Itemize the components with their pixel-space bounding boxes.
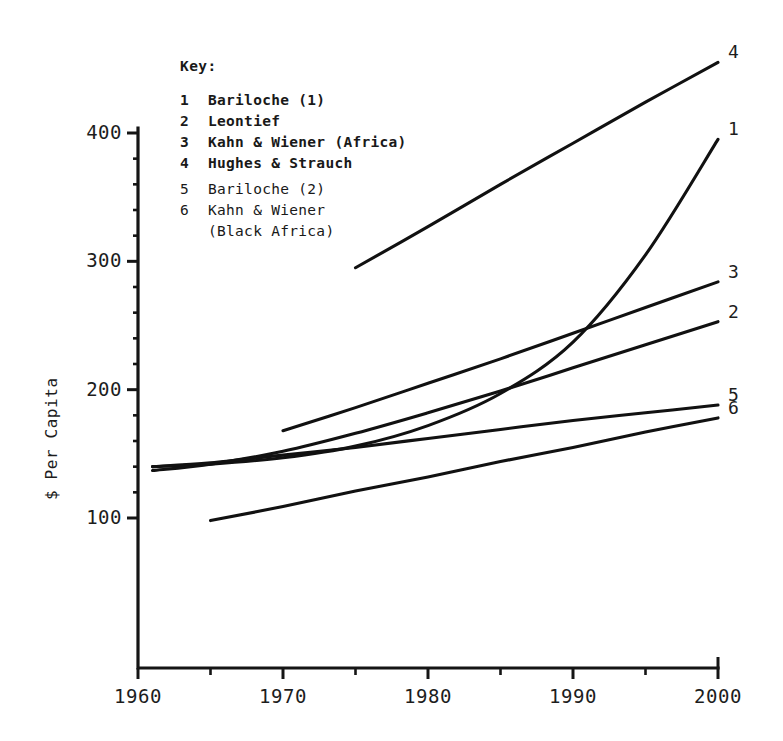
series-end-label-1: 1 bbox=[728, 118, 739, 139]
x-tick-label: 1980 bbox=[402, 685, 454, 707]
legend-entry-label: Bariloche (2) bbox=[208, 179, 510, 200]
legend-entry-6: 6Kahn & Wiener bbox=[180, 200, 510, 221]
legend-key-number: 1 bbox=[180, 90, 208, 111]
legend-entry-list: 1Bariloche (1)2Leontief3Kahn & Wiener (A… bbox=[180, 90, 510, 221]
y-tick-label: 300 bbox=[70, 249, 122, 271]
series-end-label-2: 2 bbox=[728, 301, 739, 322]
legend-entry-5: 5Bariloche (2) bbox=[180, 179, 510, 200]
legend-entry-label: Kahn & Wiener (Africa) bbox=[208, 132, 510, 153]
legend-entry-continuation: (Black Africa) bbox=[180, 221, 510, 242]
y-tick-label: 100 bbox=[70, 506, 122, 528]
x-tick-label: 1970 bbox=[257, 685, 309, 707]
series-end-label-6: 6 bbox=[728, 397, 739, 418]
series-line-2 bbox=[153, 322, 719, 471]
legend-entry-2: 2Leontief bbox=[180, 111, 510, 132]
chart-legend: Key: 1Bariloche (1)2Leontief3Kahn & Wien… bbox=[180, 58, 510, 242]
legend-entry-label: Leontief bbox=[208, 111, 510, 132]
legend-entry-label: Bariloche (1) bbox=[208, 90, 510, 111]
legend-entry-label: Kahn & Wiener bbox=[208, 200, 510, 221]
y-tick-label: 400 bbox=[70, 121, 122, 143]
legend-key-number: 5 bbox=[180, 179, 208, 200]
legend-key-number: 4 bbox=[180, 153, 208, 174]
chart-figure: Key: 1Bariloche (1)2Leontief3Kahn & Wien… bbox=[0, 0, 783, 741]
x-tick-label: 2000 bbox=[692, 685, 744, 707]
series-end-label-3: 3 bbox=[728, 261, 739, 282]
legend-key-number: 3 bbox=[180, 132, 208, 153]
x-tick-label: 1960 bbox=[112, 685, 164, 707]
legend-entry-3: 3Kahn & Wiener (Africa) bbox=[180, 132, 510, 153]
legend-key-number: 6 bbox=[180, 200, 208, 221]
y-axis-label: $ Per Capita bbox=[42, 377, 61, 500]
legend-entry-label: Hughes & Strauch bbox=[208, 153, 510, 174]
legend-key-number: 2 bbox=[180, 111, 208, 132]
legend-title: Key: bbox=[180, 58, 510, 74]
y-tick-label: 200 bbox=[70, 378, 122, 400]
series-line-3 bbox=[283, 282, 718, 431]
x-tick-label: 1990 bbox=[547, 685, 599, 707]
legend-entry-4: 4Hughes & Strauch bbox=[180, 153, 510, 174]
series-end-label-4: 4 bbox=[728, 41, 739, 62]
legend-entry-1: 1Bariloche (1) bbox=[180, 90, 510, 111]
